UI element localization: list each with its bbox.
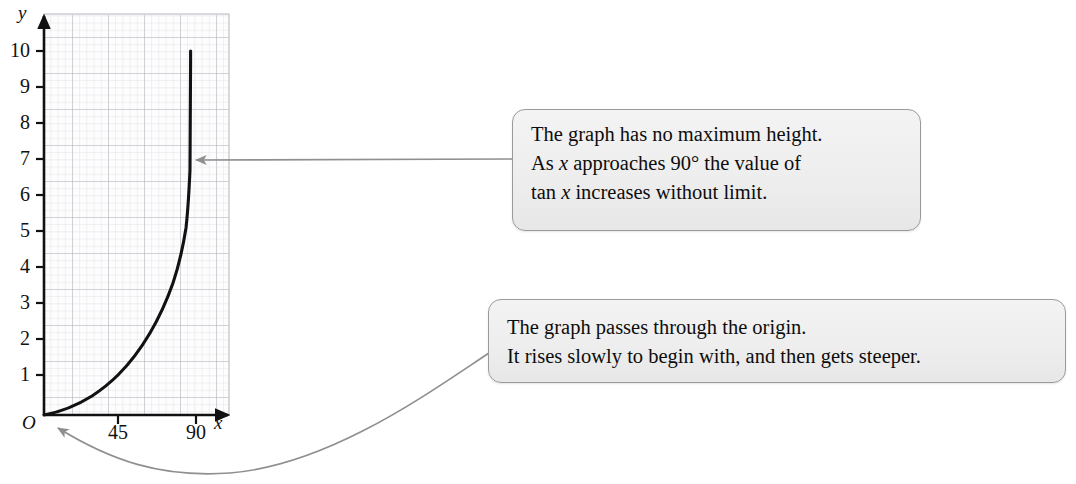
x-tick-label-90: 90: [176, 421, 216, 444]
callout-max-line-3: tan x increases without limit.: [531, 178, 904, 207]
y-tick-label-4: 4: [2, 255, 30, 278]
origin-label: O: [22, 412, 36, 434]
figure-page: 10 9 8 7 6 5 4 3 2 1 45 90 y x O The gra…: [0, 0, 1076, 484]
callout-max-line-2-variable: x: [559, 152, 568, 174]
callout-origin-line-1: The graph passes through the origin.: [507, 313, 1049, 342]
y-tick-label-10: 10: [2, 39, 30, 62]
y-tick-label-9: 9: [2, 75, 30, 98]
callout-max-line-2-b: approaches 90° the value of: [568, 152, 801, 174]
y-tick-label-5: 5: [2, 219, 30, 242]
callout-max-height: The graph has no maximum height. As x ap…: [512, 109, 921, 231]
y-tick-label-1: 1: [2, 363, 30, 386]
callout-max-line-3-b: increases without limit.: [570, 181, 767, 203]
callout-origin: The graph passes through the origin. It …: [488, 299, 1066, 383]
y-tick-label-6: 6: [2, 183, 30, 206]
x-tick-label-45: 45: [98, 421, 138, 444]
graph-canvas: [0, 0, 300, 470]
y-tick-label-2: 2: [2, 327, 30, 350]
callout-max-line-1: The graph has no maximum height.: [531, 120, 904, 149]
x-axis-label: x: [214, 412, 222, 434]
callout-max-line-2: As x approaches 90° the value of: [531, 149, 904, 178]
callout-max-line-3-a: tan: [531, 181, 561, 203]
y-tick-label-7: 7: [2, 147, 30, 170]
y-tick-label-8: 8: [2, 111, 30, 134]
callout-max-line-2-a: As: [531, 152, 559, 174]
tangent-graph-figure: 10 9 8 7 6 5 4 3 2 1 45 90 y x O: [0, 0, 300, 470]
callout-origin-line-2: It rises slowly to begin with, and then …: [507, 342, 1049, 371]
y-axis-label: y: [18, 2, 26, 24]
y-tick-label-3: 3: [2, 291, 30, 314]
callout-max-line-3-variable: x: [561, 181, 570, 203]
